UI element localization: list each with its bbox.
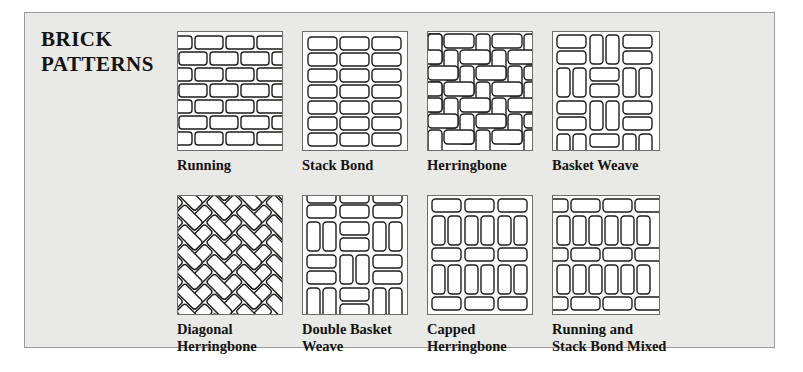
- running-bond-diagram: [178, 32, 282, 150]
- pattern-cell-basket-weave: Basket Weave: [552, 31, 660, 174]
- pattern-swatch-basket-weave: [552, 31, 660, 151]
- pattern-swatch-capped-herringbone: [427, 195, 533, 315]
- pattern-swatch-running: [177, 31, 283, 151]
- pattern-swatch-diagonal-herringbone: [177, 195, 283, 315]
- page-title: BRICK PATTERNS: [41, 27, 181, 77]
- capped-herringbone-diagram: [428, 196, 532, 314]
- pattern-cell-herringbone: Herringbone: [427, 31, 533, 174]
- pattern-cell-stack-bond: Stack Bond: [302, 31, 408, 174]
- stack-bond-diagram: [303, 32, 407, 150]
- pattern-swatch-stack-bond: [302, 31, 408, 151]
- pattern-cell-running-and-stack-bond-mixed: Running and Stack Bond Mixed: [552, 195, 666, 355]
- diagonal-herringbone-diagram: [178, 196, 282, 314]
- pattern-cell-capped-herringbone: Capped Herringbone: [427, 195, 533, 355]
- title-line-1: BRICK: [41, 27, 181, 52]
- double-basket-weave-diagram: [303, 196, 407, 314]
- pattern-cell-diagonal-herringbone: Diagonal Herringbone: [177, 195, 283, 355]
- basket-weave-diagram: [553, 32, 659, 150]
- herringbone-diagram: [428, 32, 532, 150]
- pattern-label-stack-bond: Stack Bond: [302, 157, 408, 174]
- pattern-label-basket-weave: Basket Weave: [552, 157, 660, 174]
- pattern-swatch-herringbone: [427, 31, 533, 151]
- pattern-label-capped-herringbone: Capped Herringbone: [427, 321, 533, 355]
- title-line-2: PATTERNS: [41, 52, 181, 77]
- pattern-label-running: Running: [177, 157, 283, 174]
- pattern-cell-running: Running: [177, 31, 283, 174]
- pattern-label-diagonal-herringbone: Diagonal Herringbone: [177, 321, 283, 355]
- pattern-cell-double-basket-weave: Double Basket Weave: [302, 195, 408, 355]
- pattern-swatch-running-and-stack-bond-mixed: [552, 195, 660, 315]
- running-stack-mixed-diagram: [553, 196, 659, 314]
- brick-patterns-panel: BRICK PATTERNS: [24, 12, 775, 348]
- pattern-swatch-double-basket-weave: [302, 195, 408, 315]
- pattern-label-double-basket-weave: Double Basket Weave: [302, 321, 408, 355]
- pattern-label-running-and-stack-bond-mixed: Running and Stack Bond Mixed: [552, 321, 666, 355]
- pattern-label-herringbone: Herringbone: [427, 157, 533, 174]
